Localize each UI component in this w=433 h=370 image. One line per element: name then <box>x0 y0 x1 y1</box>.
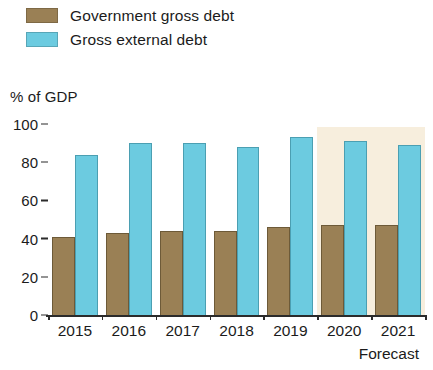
bar-group-2019 <box>263 124 317 315</box>
x-axis-tick-mark <box>102 315 104 320</box>
x-axis-label-2017: 2017 <box>156 322 210 340</box>
bar-government-gross-debt-2017 <box>160 231 183 315</box>
bar-group-2020 <box>317 124 371 315</box>
x-axis-label-2019: 2019 <box>263 322 317 340</box>
chart-legend: Government gross debt Gross external deb… <box>26 6 234 48</box>
y-axis-tick-label: 100 <box>13 116 38 133</box>
bar-gross-external-debt-2017 <box>183 143 206 315</box>
bar-government-gross-debt-2016 <box>106 233 129 315</box>
legend-swatch-icon-gross-external-debt <box>26 32 58 47</box>
y-axis-tick-100: 100 <box>13 116 48 133</box>
y-axis-tick-40: 40 <box>21 230 48 247</box>
legend-item-government-gross-debt: Government gross debt <box>26 6 234 24</box>
y-axis-tick-label: 60 <box>21 192 38 209</box>
y-axis: 100806040200 <box>0 118 48 321</box>
bar-group-2015 <box>48 124 102 315</box>
bar-group-2017 <box>156 124 210 315</box>
x-axis-ticks <box>48 315 425 321</box>
y-axis-tick-label: 40 <box>21 230 38 247</box>
x-axis-labels: 2015201620172018201920202021 <box>48 322 425 340</box>
x-axis-label-2020: 2020 <box>317 322 371 340</box>
bar-group-2021 <box>371 124 425 315</box>
y-axis-tick-20: 20 <box>21 268 48 285</box>
bar-gross-external-debt-2021 <box>398 145 421 315</box>
legend-swatch-icon-government-gross-debt <box>26 8 58 23</box>
forecast-note-label: Forecast <box>359 345 419 363</box>
y-axis-tick-mark <box>41 276 48 278</box>
legend-item-gross-external-debt: Gross external debt <box>26 30 234 48</box>
x-axis-label-2018: 2018 <box>210 322 264 340</box>
bar-government-gross-debt-2018 <box>214 231 237 315</box>
bar-gross-external-debt-2018 <box>237 147 260 315</box>
y-axis-tick-80: 80 <box>21 154 48 171</box>
x-axis-tick-mark <box>156 315 158 320</box>
bar-government-gross-debt-2019 <box>267 227 290 315</box>
y-axis-tick-label: 0 <box>30 307 38 324</box>
bar-gross-external-debt-2015 <box>75 155 98 315</box>
bar-gross-external-debt-2020 <box>344 141 367 315</box>
x-axis-label-2015: 2015 <box>48 322 102 340</box>
x-axis-label-2021: 2021 <box>371 322 425 340</box>
x-axis-tick-mark <box>263 315 265 320</box>
bar-groups <box>48 124 425 315</box>
y-axis-tick-label: 20 <box>21 268 38 285</box>
plot-area <box>48 124 425 315</box>
y-axis-tick-mark <box>41 123 48 125</box>
y-axis-tick-mark <box>41 200 48 202</box>
x-axis-tick-mark <box>317 315 319 320</box>
y-axis-tick-mark <box>41 161 48 163</box>
bar-group-2016 <box>102 124 156 315</box>
bar-gross-external-debt-2019 <box>290 137 313 315</box>
x-axis-tick-mark <box>48 315 50 320</box>
x-axis-tick-mark <box>425 315 427 320</box>
x-axis-tick-mark <box>371 315 373 320</box>
y-axis-tick-label: 80 <box>21 154 38 171</box>
y-axis-title: % of GDP <box>10 88 78 105</box>
bar-group-2018 <box>210 124 264 315</box>
legend-label-gross-external-debt: Gross external debt <box>70 32 207 47</box>
y-axis-tick-60: 60 <box>21 192 48 209</box>
bar-government-gross-debt-2015 <box>52 237 75 315</box>
bar-government-gross-debt-2021 <box>375 225 398 315</box>
bar-gross-external-debt-2016 <box>129 143 152 315</box>
x-axis-tick-mark <box>210 315 212 320</box>
bar-government-gross-debt-2020 <box>321 225 344 315</box>
x-axis-label-2016: 2016 <box>102 322 156 340</box>
y-axis-tick-mark <box>41 238 48 240</box>
legend-label-government-gross-debt: Government gross debt <box>70 8 234 23</box>
